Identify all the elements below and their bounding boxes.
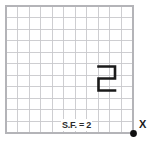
scale-factor-label: S.F. = 2 [61,119,92,131]
center-point-label: X [139,118,146,130]
worksheet-canvas: S.F. = 2 X [0,0,157,143]
center-of-dilation-dot [130,130,137,137]
